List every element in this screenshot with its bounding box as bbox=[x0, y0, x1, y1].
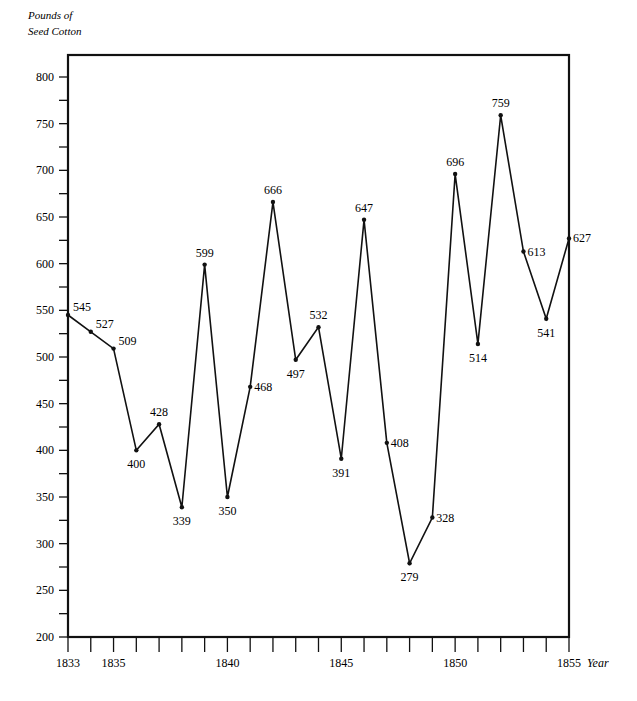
data-label: 509 bbox=[119, 334, 137, 348]
data-point bbox=[294, 358, 298, 362]
data-point bbox=[385, 441, 389, 445]
data-label: 666 bbox=[264, 183, 282, 197]
data-point bbox=[111, 346, 115, 350]
data-point bbox=[407, 561, 411, 565]
data-label: 514 bbox=[469, 351, 487, 365]
data-point bbox=[316, 325, 320, 329]
y-tick-label: 200 bbox=[36, 630, 54, 644]
y-tick-label: 250 bbox=[36, 583, 54, 597]
data-point bbox=[89, 330, 93, 334]
series-line bbox=[68, 115, 569, 563]
data-label: 428 bbox=[150, 405, 168, 419]
x-tick-label: 1835 bbox=[102, 656, 126, 670]
data-label: 532 bbox=[310, 308, 328, 322]
data-label: 545 bbox=[73, 300, 91, 314]
data-label: 391 bbox=[332, 466, 350, 480]
data-point bbox=[521, 249, 525, 253]
y-axis-title-line-1: Pounds of bbox=[27, 9, 74, 21]
y-tick-label: 650 bbox=[36, 210, 54, 224]
data-point bbox=[225, 495, 229, 499]
plot-frame bbox=[68, 55, 569, 637]
data-point bbox=[544, 317, 548, 321]
data-point bbox=[567, 236, 571, 240]
y-tick-label: 450 bbox=[36, 397, 54, 411]
y-axis-title-line-2: Seed Cotton bbox=[28, 25, 82, 37]
x-tick-label: 1855 bbox=[557, 656, 581, 670]
x-axis: 183318351840184518501855 bbox=[56, 637, 581, 670]
data-point bbox=[271, 200, 275, 204]
y-tick-label: 800 bbox=[36, 70, 54, 84]
data-label: 468 bbox=[254, 380, 272, 394]
data-point bbox=[339, 457, 343, 461]
y-tick-label: 600 bbox=[36, 257, 54, 271]
data-label: 279 bbox=[401, 570, 419, 584]
y-tick-label: 700 bbox=[36, 163, 54, 177]
data-label: 328 bbox=[436, 511, 454, 525]
data-label: 599 bbox=[196, 246, 214, 260]
data-point bbox=[180, 505, 184, 509]
data-point bbox=[476, 342, 480, 346]
y-tick-label: 550 bbox=[36, 303, 54, 317]
data-label: 627 bbox=[573, 231, 591, 245]
data-label: 408 bbox=[391, 436, 409, 450]
data-point bbox=[134, 448, 138, 452]
y-axis: 200250300350400450500550600650700750800 bbox=[36, 70, 68, 644]
data-point bbox=[453, 172, 457, 176]
x-tick-label: 1833 bbox=[56, 656, 80, 670]
data-point bbox=[66, 313, 70, 317]
data-label: 497 bbox=[287, 367, 305, 381]
data-label: 350 bbox=[218, 504, 236, 518]
y-tick-label: 500 bbox=[36, 350, 54, 364]
x-tick-label: 1840 bbox=[215, 656, 239, 670]
data-label: 339 bbox=[173, 514, 191, 528]
data-label: 541 bbox=[537, 326, 555, 340]
y-tick-label: 350 bbox=[36, 490, 54, 504]
data-point bbox=[498, 113, 502, 117]
data-label: 400 bbox=[127, 457, 145, 471]
data-label: 696 bbox=[446, 155, 464, 169]
data-point bbox=[157, 422, 161, 426]
data-point bbox=[362, 218, 366, 222]
data-point bbox=[202, 262, 206, 266]
line-chart: Pounds of Seed Cotton 200250300350400450… bbox=[0, 0, 637, 701]
y-tick-label: 400 bbox=[36, 443, 54, 457]
data-label: 527 bbox=[96, 317, 114, 331]
data-point bbox=[248, 385, 252, 389]
data-point bbox=[430, 515, 434, 519]
x-axis-title: Year bbox=[587, 656, 609, 670]
data-series: 5455275094004283395993504686664975323916… bbox=[66, 96, 591, 584]
x-tick-label: 1850 bbox=[443, 656, 467, 670]
y-tick-label: 300 bbox=[36, 537, 54, 551]
x-tick-label: 1845 bbox=[329, 656, 353, 670]
data-label: 647 bbox=[355, 201, 373, 215]
data-label: 613 bbox=[527, 245, 545, 259]
data-label: 759 bbox=[492, 96, 510, 110]
y-tick-label: 750 bbox=[36, 117, 54, 131]
